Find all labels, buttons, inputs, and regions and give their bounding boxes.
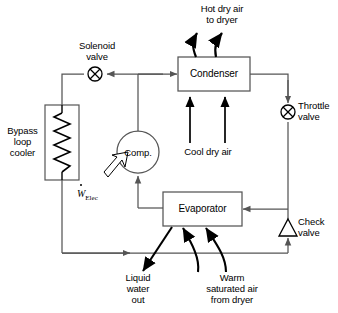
warm-saturated-air-arrows: [183, 228, 226, 272]
compressor-label: Comp.: [118, 147, 158, 158]
bypass-cooler-label: Bypass loop cooler: [0, 125, 45, 158]
liquid-water-out-arrow: [143, 227, 172, 271]
work-symbol: W: [77, 188, 85, 199]
cooler-coil: [54, 113, 70, 172]
hot-dry-air-label: Hot dry air to dryer: [167, 3, 277, 25]
pipe-solenoid-to-cooler: [62, 74, 84, 105]
solenoid-valve-symbol: [88, 67, 102, 81]
condenser-label: Condenser: [178, 68, 250, 79]
diagram-canvas: Solenoid valve Condenser Evaporator Comp…: [0, 0, 338, 313]
work-input-label: WElec: [77, 188, 98, 202]
throttle-valve-label: Throttle valve: [298, 100, 338, 122]
check-valve-symbol: [279, 219, 297, 236]
throttle-valve-symbol: [281, 105, 295, 119]
cool-dry-air-label: Cool dry air: [158, 146, 258, 157]
check-valve-label: Check valve: [298, 216, 338, 238]
work-subscript: Elec: [85, 194, 97, 202]
cool-dry-air-arrows: [190, 97, 225, 143]
solenoid-valve-label: Solenoid valve: [62, 40, 132, 62]
warm-saturated-air-label: Warm saturated air from dryer: [182, 272, 282, 305]
evaporator-label: Evaporator: [163, 203, 242, 214]
pipe-condenser-to-throttle: [250, 74, 288, 100]
liquid-water-out-label: Liquid water out: [103, 272, 173, 305]
hot-dry-air-arrows: [193, 33, 222, 57]
bypass-cooler-box: [45, 105, 79, 180]
